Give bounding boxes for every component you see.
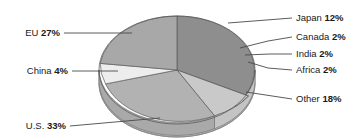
- label-us: U.S. 33%: [26, 120, 67, 131]
- label-japan: Japan 12%: [296, 12, 344, 23]
- label-africa-name: Africa: [296, 64, 321, 75]
- label-other: Other 18%: [296, 93, 342, 104]
- label-china-name: China: [27, 65, 53, 76]
- pie-chart-svg: Japan 12% Canada 2% India 2% Africa 2% O…: [0, 0, 363, 139]
- label-other-name: Other: [296, 93, 320, 104]
- label-eu-value: 27%: [41, 27, 61, 38]
- label-us-value: 33%: [47, 120, 67, 131]
- label-us-name: U.S.: [26, 120, 44, 131]
- label-eu-name: EU: [25, 27, 38, 38]
- label-canada: Canada 2%: [296, 31, 346, 42]
- label-canada-value: 2%: [332, 31, 346, 42]
- label-africa: Africa 2%: [296, 64, 337, 75]
- label-africa-value: 2%: [323, 64, 337, 75]
- label-other-value: 18%: [322, 93, 342, 104]
- label-canada-name: Canada: [296, 31, 330, 42]
- label-japan-value: 12%: [325, 12, 345, 23]
- label-eu: EU 27%: [25, 27, 60, 38]
- label-japan-name: Japan: [296, 12, 322, 23]
- label-china-value: 4%: [54, 65, 68, 76]
- pie-chart-figure: Japan 12% Canada 2% India 2% Africa 2% O…: [0, 0, 363, 139]
- label-india-name: India: [296, 48, 317, 59]
- leader-canada: [240, 37, 292, 48]
- pie-slice-eu[interactable]: [100, 16, 177, 70]
- label-china: China 4%: [27, 65, 69, 76]
- label-india: India 2%: [296, 48, 334, 59]
- leader-japan: [228, 18, 292, 23]
- label-india-value: 2%: [319, 48, 333, 59]
